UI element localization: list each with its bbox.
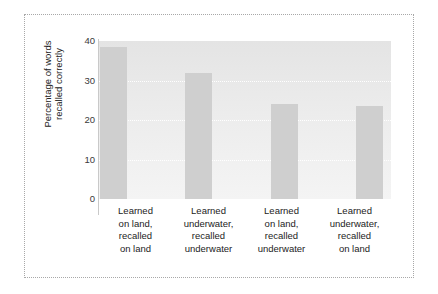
plot-area	[99, 41, 391, 199]
y-tick-label-30: 30	[69, 76, 95, 86]
chart-figure: 40 30 20 10 0 Percentage of words recall…	[24, 14, 414, 278]
gridline-20	[99, 120, 391, 121]
bar-learned-underwater-recalled-on-land	[356, 106, 383, 199]
x-label-line: Learned	[245, 205, 318, 218]
y-axis-title: Percentage of words recalled correctly	[42, 24, 64, 144]
x-axis-category-labels: Learned on land, recalled on land Learne…	[99, 205, 391, 255]
bar-learned-on-land-recalled-on-land	[100, 47, 127, 199]
x-label-learned-on-land-recalled-underwater: Learned on land, recalled underwater	[245, 205, 318, 255]
x-label-learned-underwater-recalled-on-land: Learned underwater, recalled on land	[318, 205, 391, 255]
bar-learned-on-land-recalled-underwater	[271, 104, 298, 199]
x-label-line: recalled	[172, 230, 245, 243]
x-label-line: on land,	[245, 218, 318, 231]
x-label-learned-underwater-recalled-underwater: Learned underwater, recalled underwater	[172, 205, 245, 255]
x-label-line: on land	[318, 243, 391, 256]
x-label-line: Learned	[318, 205, 391, 218]
x-label-line: on land,	[99, 218, 172, 231]
gridline-30	[99, 81, 391, 82]
bar-learned-underwater-recalled-underwater	[185, 73, 212, 199]
x-label-line: underwater	[172, 243, 245, 256]
y-axis-line	[98, 39, 99, 215]
y-axis-title-line-1: Percentage of words	[42, 40, 53, 127]
x-label-line: Learned	[99, 205, 172, 218]
gridline-10	[99, 160, 391, 161]
y-axis-title-line-2: recalled correctly	[53, 48, 64, 120]
x-label-line: underwater,	[318, 218, 391, 231]
y-tick-label-0: 0	[69, 194, 95, 204]
x-label-line: recalled	[245, 230, 318, 243]
x-label-line: underwater,	[172, 218, 245, 231]
x-label-line: recalled	[99, 230, 172, 243]
x-label-learned-on-land-recalled-on-land: Learned on land, recalled on land	[99, 205, 172, 255]
x-label-line: underwater	[245, 243, 318, 256]
y-tick-label-40: 40	[69, 36, 95, 46]
x-label-line: Learned	[172, 205, 245, 218]
y-tick-label-20: 20	[69, 115, 95, 125]
x-label-line: recalled	[318, 230, 391, 243]
y-tick-label-10: 10	[69, 155, 95, 165]
x-label-line: on land	[99, 243, 172, 256]
